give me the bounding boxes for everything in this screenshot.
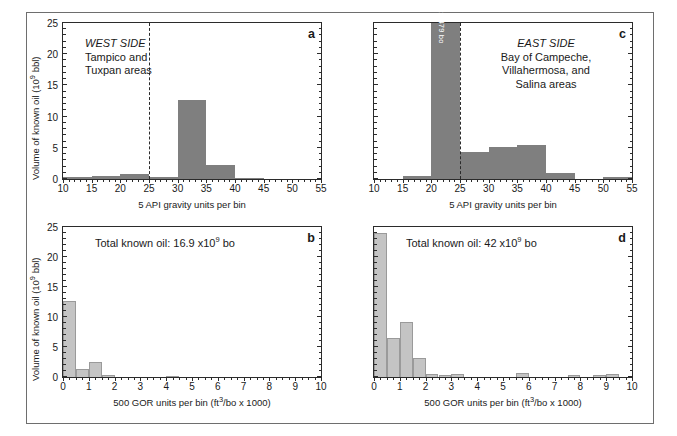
y-tick-minor [319,292,322,293]
x-tick-minor [246,179,247,182]
y-tick-label: 15 [47,80,58,91]
y-tick-minor [630,352,633,353]
x-tick-minor [258,179,259,182]
y-tick-minor [630,128,633,129]
y-tick-minor [319,328,322,329]
y-tick-minor [374,274,377,275]
y-tick-minor [319,370,322,371]
y-tick [374,256,378,257]
y-tick [374,376,378,377]
x-tick-label: 15 [86,183,97,194]
x-tick-label: 7 [241,381,247,392]
y-tick-minor [319,128,322,129]
x-tick-minor [224,179,225,182]
x-tick-minor [464,377,465,380]
x-tick-label: 9 [292,381,298,392]
y-tick-minor [630,97,633,98]
y-tick [628,376,632,377]
x-tick-label: 9 [603,381,609,392]
y-tick-minor [63,304,66,305]
x-tick-minor [153,377,154,380]
y-tick-minor [374,134,377,135]
y-tick-minor [63,28,66,29]
y-tick [63,53,67,54]
bar [413,358,426,377]
panel-c-region-line-1: Villahermosa, and [466,64,626,78]
y-tick-minor [630,370,633,371]
x-tick-minor [458,377,459,380]
x-tick-label: 2 [112,381,118,392]
y-tick [317,346,321,347]
y-tick-minor [630,262,633,263]
x-tick-minor [231,377,232,380]
x-tick-minor [477,179,478,182]
x-tick-label: 25 [143,183,154,194]
y-tick [374,147,378,148]
y-tick-minor [630,280,633,281]
x-tick-label: 5 [189,381,195,392]
x-tick-minor [76,377,77,380]
y-tick [63,226,67,227]
y-tick-minor [63,103,66,104]
x-tick-label: 10 [626,381,637,392]
figure-root: 10152025303540455055 0510152025 a WEST S… [0,0,677,436]
y-tick-label: 20 [47,252,58,263]
y-tick [628,346,632,347]
y-tick-minor [374,358,377,359]
y-tick [374,286,378,287]
y-tick-minor [319,172,322,173]
x-tick-minor [310,179,311,182]
x-tick-minor [298,179,299,182]
y-tick-minor [374,47,377,48]
x-tick-minor [484,377,485,380]
y-tick-minor [319,34,322,35]
x-tick-minor [593,377,594,380]
y-tick-minor [630,41,633,42]
y-tick-minor [630,268,633,269]
y-tick-minor [374,304,377,305]
y-tick-minor [374,28,377,29]
y-tick [628,147,632,148]
y-tick-minor [374,340,377,341]
y-tick-minor [630,334,633,335]
x-tick-minor [132,179,133,182]
x-tick-minor [315,377,316,380]
bar [89,362,102,377]
y-tick-minor [374,334,377,335]
x-tick-minor [224,377,225,380]
y-tick-minor [319,41,322,42]
y-tick [374,178,378,179]
y-tick-minor [630,298,633,299]
y-tick-minor [63,34,66,35]
y-tick-minor [63,328,66,329]
y-tick-minor [630,159,633,160]
x-tick-minor [103,179,104,182]
y-tick-minor [63,322,66,323]
x-tick-minor [439,377,440,380]
y-tick-minor [374,298,377,299]
x-tick-minor [432,377,433,380]
y-tick [317,286,321,287]
y-tick [63,84,67,85]
y-tick-minor [374,232,377,233]
x-tick-minor [540,179,541,182]
x-tick-minor [282,377,283,380]
panel-a-y-axis-title: Volume of known oil (109 bbl) [30,56,41,180]
x-tick-label: 50 [287,183,298,194]
bar [63,301,76,377]
x-tick-minor [516,377,517,380]
y-tick-label: 15 [47,282,58,293]
y-tick-minor [374,322,377,323]
y-tick-minor [374,97,377,98]
x-tick-minor [80,179,81,182]
y-tick-minor [319,244,322,245]
y-tick-minor [63,128,66,129]
x-tick-minor [160,377,161,380]
y-tick-minor [374,328,377,329]
y-tick [63,116,67,117]
bar [374,233,387,377]
y-tick-minor [630,91,633,92]
x-tick-minor [500,179,501,182]
x-tick-minor [69,179,70,182]
x-tick-minor [490,377,491,380]
